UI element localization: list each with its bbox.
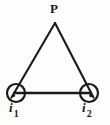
- node-1-current-symbol: i: [9, 100, 13, 115]
- node-1-current-subscript: 1: [14, 108, 19, 119]
- node-2-current-label: i2: [82, 101, 91, 114]
- figure-container: P i1 i2: [0, 0, 110, 125]
- node-2-current-symbol: i: [82, 100, 86, 115]
- triangle-left-edge: [12, 23, 56, 98]
- apex-label: P: [50, 2, 58, 15]
- node-2-junction-dot: [89, 94, 93, 98]
- triangle-right-edge: [55, 23, 94, 98]
- node-1-junction-dot: [12, 94, 15, 97]
- node-1-current-label: i1: [9, 101, 18, 114]
- node-2-current-subscript: 2: [87, 108, 92, 119]
